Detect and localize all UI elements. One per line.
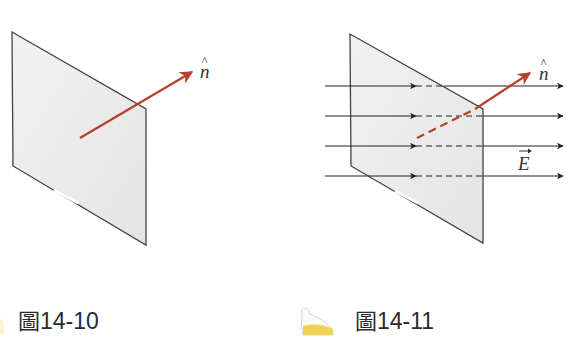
svg-text:^: ^ (541, 55, 547, 70)
figure-14-10: n ^ (12, 32, 210, 245)
normal-label: n ^ (200, 53, 210, 82)
caption-number: 14-10 (40, 308, 99, 334)
caption-prefix: 圖 (355, 309, 377, 334)
svg-text:^: ^ (202, 53, 208, 68)
diagram-canvas: n ^ (0, 0, 569, 337)
field-label: E (517, 149, 532, 175)
figure-caption-14-10: 圖14-10 (18, 309, 99, 334)
figure-caption-14-11: 圖14-11 (355, 309, 434, 334)
normal-label: n ^ (539, 55, 549, 84)
caption-prefix: 圖 (18, 309, 40, 334)
flask-icon (301, 308, 333, 335)
surface-plate (12, 32, 146, 245)
figure-14-11: n ^ E (325, 34, 563, 243)
surface-plate (350, 34, 483, 243)
caption-icon-left (0, 318, 5, 334)
svg-text:E: E (517, 153, 530, 174)
caption-number: 14-11 (377, 308, 434, 334)
